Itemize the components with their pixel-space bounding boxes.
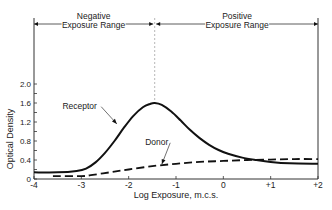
x-tick-label: -4 xyxy=(30,180,38,190)
y-tick-label: 1.2 xyxy=(20,118,32,127)
label-donor: Donor xyxy=(145,137,168,147)
range-label-line2: Exposure Range xyxy=(205,20,269,30)
chart-canvas: NegativeExposure RangePositiveExposure R… xyxy=(0,0,332,210)
arrowhead-left-icon xyxy=(156,22,160,26)
y-tick-label: 0.4 xyxy=(20,156,32,165)
label-receptor: Receptor xyxy=(62,101,97,111)
x-tick-label: -3 xyxy=(78,180,86,190)
y-axis-label: Optical Density xyxy=(5,108,15,169)
exposure-range-annotations: NegativeExposure RangePositiveExposure R… xyxy=(34,11,318,103)
x-tick-label: -2 xyxy=(125,180,133,190)
y-tick-label: 2.0 xyxy=(20,80,32,89)
y-tick-label: 1.6 xyxy=(20,99,32,108)
arrowhead-right-icon xyxy=(149,22,153,26)
x-tick-label: +1 xyxy=(266,180,276,190)
x-axis-label: Log Exposure, m.c.s. xyxy=(134,190,219,200)
series-labels: ReceptorDonor xyxy=(62,101,170,165)
data-series xyxy=(34,103,318,176)
x-tick-label: 0 xyxy=(221,180,226,190)
range-label-line2: Exposure Range xyxy=(62,20,126,30)
arrowhead-left-icon xyxy=(34,22,38,26)
x-tick-label: -1 xyxy=(172,180,180,190)
series-receptor-line xyxy=(34,103,318,172)
x-tick-label: +2 xyxy=(313,180,323,190)
optical-density-chart: NegativeExposure RangePositiveExposure R… xyxy=(0,0,332,210)
arrowhead-icon xyxy=(162,159,166,164)
y-tick-label: 0.8 xyxy=(20,137,32,146)
arrowhead-right-icon xyxy=(314,22,318,26)
